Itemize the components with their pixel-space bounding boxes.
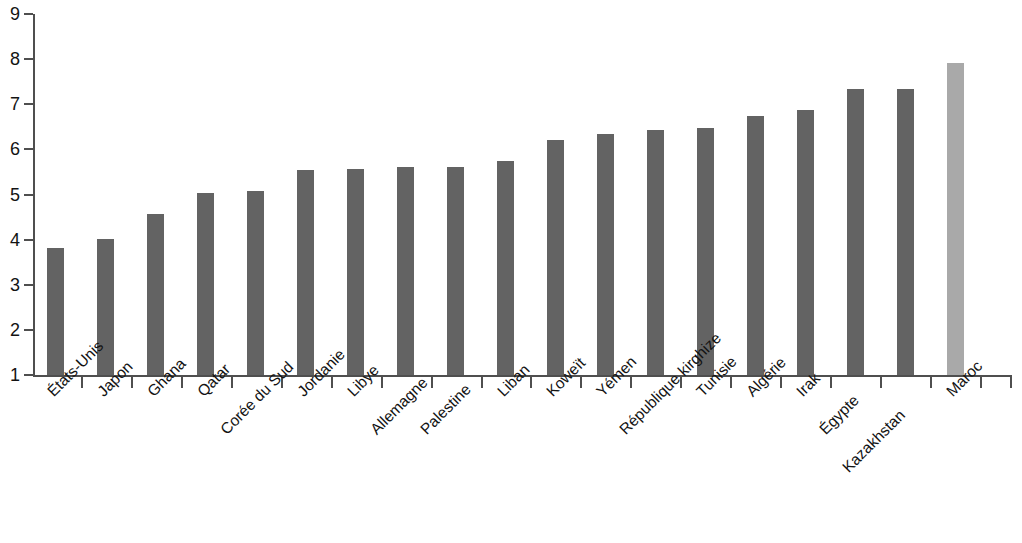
y-axis-tick xyxy=(24,58,33,60)
x-axis-tick xyxy=(131,377,133,388)
x-axis-tick xyxy=(431,377,433,388)
bar xyxy=(447,167,464,375)
x-axis-category-label: Égypte xyxy=(817,392,862,437)
x-axis-tick xyxy=(81,377,83,388)
x-axis-tick xyxy=(880,377,882,388)
y-axis-tick-label: 3 xyxy=(0,276,20,294)
bar xyxy=(897,89,914,375)
bar xyxy=(847,89,864,375)
x-axis-tick xyxy=(980,377,982,388)
bar xyxy=(247,191,264,375)
bar xyxy=(597,134,614,375)
bar xyxy=(47,248,64,375)
y-axis-tick-label: 7 xyxy=(0,95,20,113)
bar xyxy=(797,110,814,375)
y-axis-tick-label: 5 xyxy=(0,186,20,204)
x-axis-tick xyxy=(630,377,632,388)
x-axis-tick xyxy=(730,377,732,388)
y-axis-tick xyxy=(24,239,33,241)
x-axis-tick xyxy=(780,377,782,388)
x-axis-tick xyxy=(381,377,383,388)
y-axis-tick-label: 2 xyxy=(0,321,20,339)
y-axis-line xyxy=(33,14,35,376)
bar xyxy=(647,130,664,375)
bar xyxy=(147,214,164,375)
bar xyxy=(497,161,514,375)
y-axis-tick xyxy=(24,374,33,376)
y-axis-tick-label: 9 xyxy=(0,5,20,23)
x-axis-tick xyxy=(181,377,183,388)
y-axis-tick xyxy=(24,103,33,105)
y-axis-tick xyxy=(24,13,33,15)
x-axis-tick xyxy=(930,377,932,388)
y-axis-tick-label: 4 xyxy=(0,231,20,249)
bar-chart: 123456789 États-UnisJaponGhanaQatarCorée… xyxy=(0,0,1022,543)
x-axis-tick xyxy=(231,377,233,388)
bar xyxy=(947,63,964,375)
x-axis-tick xyxy=(331,377,333,388)
y-axis-tick xyxy=(24,194,33,196)
bar xyxy=(297,170,314,375)
x-axis-tick xyxy=(580,377,582,388)
y-axis-tick xyxy=(24,284,33,286)
bar xyxy=(747,116,764,375)
y-axis-tick-label: 1 xyxy=(0,366,20,384)
x-axis-tick xyxy=(481,377,483,388)
y-axis-tick xyxy=(24,329,33,331)
x-axis-category-label: Kazakhstan xyxy=(840,407,908,475)
bar xyxy=(547,140,564,375)
bar xyxy=(347,169,364,375)
y-axis-tick-label: 6 xyxy=(0,140,20,158)
y-axis-tick-label: 8 xyxy=(0,50,20,68)
x-axis-tick xyxy=(830,377,832,388)
x-axis-tick xyxy=(530,377,532,388)
y-axis-tick xyxy=(24,148,33,150)
bar xyxy=(197,193,214,375)
bar xyxy=(397,167,414,375)
x-axis-tick xyxy=(1010,377,1012,388)
